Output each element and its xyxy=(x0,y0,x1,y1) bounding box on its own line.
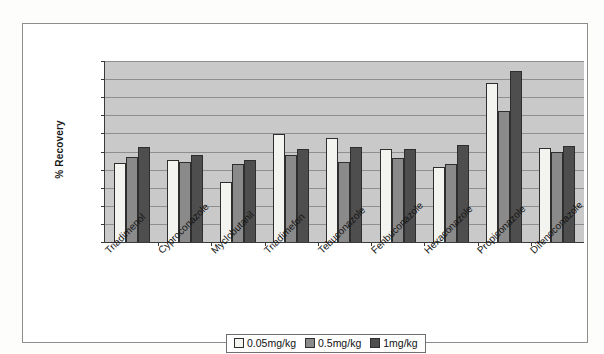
chart-frame: % Recovery 020406080100120140160180200 T… xyxy=(22,23,588,343)
bar-group xyxy=(105,61,158,242)
bar xyxy=(404,149,416,242)
legend-label: 0.05mg/kg xyxy=(247,337,296,349)
legend-item: 1mg/kg xyxy=(370,337,417,349)
chart-legend: 0.05mg/kg0.5mg/kg1mg/kg xyxy=(226,334,426,353)
bar xyxy=(563,146,575,242)
bar xyxy=(457,145,469,242)
bar xyxy=(297,149,309,242)
legend-label: 1mg/kg xyxy=(383,337,417,349)
bar-group xyxy=(211,61,264,242)
bar xyxy=(191,155,203,242)
legend-item: 0.5mg/kg xyxy=(305,337,361,349)
bar xyxy=(138,147,150,242)
bar xyxy=(244,160,256,242)
legend-item: 0.05mg/kg xyxy=(234,337,296,349)
legend-swatch xyxy=(370,338,380,348)
bar-group xyxy=(265,61,318,242)
bar xyxy=(486,83,498,242)
y-axis-title-label: % Recovery xyxy=(54,120,65,179)
bar xyxy=(350,147,362,242)
y-tick-mark xyxy=(101,242,105,243)
y-axis-title: % Recovery xyxy=(51,84,67,214)
legend-label: 0.5mg/kg xyxy=(318,337,361,349)
legend-swatch xyxy=(234,338,244,348)
legend-swatch xyxy=(305,338,315,348)
